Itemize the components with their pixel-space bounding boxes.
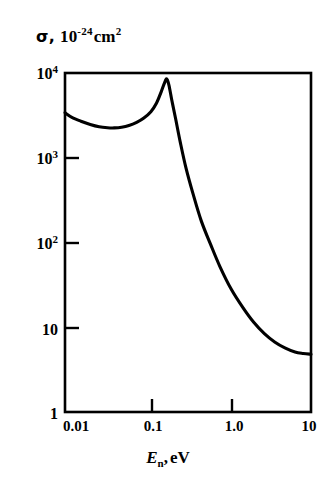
x-tick-marks <box>152 399 232 412</box>
y-tick-marks <box>65 158 79 328</box>
plot-frame <box>65 73 311 412</box>
plot-area <box>0 0 336 500</box>
data-curve <box>65 79 311 354</box>
figure-container: σ,10-24cm2 104 103 102 10 1 0.01 0.1 1.0… <box>0 0 336 500</box>
